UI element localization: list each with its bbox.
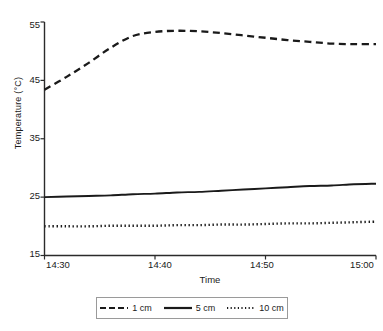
legend-swatch-solid-icon — [164, 304, 192, 312]
legend-entry-1cm: 1 cm — [100, 303, 152, 313]
legend-swatch-dotted-icon — [227, 304, 255, 312]
legend-swatch-dashed-icon — [100, 304, 128, 312]
series-line-5-cm — [45, 184, 377, 197]
temperature-time-chart: Temperature (°C) 55 45 35 25 15 14:30 14… — [0, 0, 383, 331]
legend-label-10cm: 10 cm — [259, 303, 284, 313]
series-line-10-cm — [45, 222, 377, 227]
legend-entry-5cm: 5 cm — [164, 303, 216, 313]
legend: 1 cm 5 cm 10 cm — [96, 297, 288, 319]
plot-area — [0, 0, 383, 331]
legend-entry-10cm: 10 cm — [227, 303, 284, 313]
legend-label-5cm: 5 cm — [196, 303, 216, 313]
series-line-1-cm — [45, 31, 377, 90]
legend-label-1cm: 1 cm — [132, 303, 152, 313]
data-series-layer — [45, 31, 377, 227]
